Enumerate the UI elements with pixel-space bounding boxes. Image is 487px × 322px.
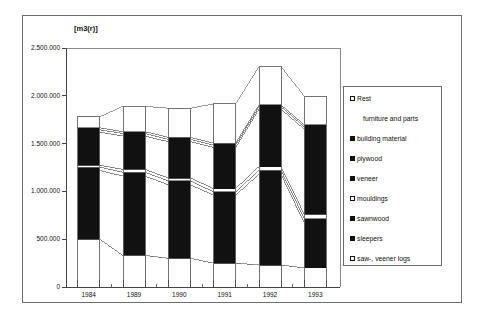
bar-segment: [168, 181, 190, 185]
legend-swatch-hollow-icon: [350, 196, 355, 201]
connector-band: [100, 132, 123, 169]
bar-segment: [168, 108, 190, 137]
legend-item[interactable]: furniture and parts: [361, 115, 418, 122]
legend-item[interactable]: building material: [350, 135, 407, 142]
legend-swatch-filled-icon: [350, 236, 355, 241]
y-axis-tick-label: 1.500.000: [16, 140, 60, 147]
bar-segment: [259, 67, 281, 105]
legend-item[interactable]: sleepers: [350, 235, 383, 242]
bar-segment: [168, 258, 190, 287]
bar-segment: [78, 117, 100, 128]
bar-segment: [214, 104, 236, 143]
bar-segment: [168, 139, 190, 141]
bar-segment: [78, 170, 100, 239]
legend-item-label: sleepers: [357, 235, 383, 242]
legend-item-label: sawnwood: [357, 215, 389, 222]
bar-segment: [259, 170, 281, 174]
connector-band: [281, 265, 304, 287]
bar-segment: [123, 106, 145, 131]
y-axis-tick-label: 500.000: [16, 235, 60, 242]
legend-item[interactable]: veneer: [350, 175, 378, 182]
y-axis-tick-label: 2.000.000: [16, 92, 60, 99]
connector-band: [236, 263, 259, 287]
legend-swatch-filled-icon: [350, 136, 355, 141]
connector-band: [145, 106, 168, 137]
bar-segment: [78, 239, 100, 287]
legend-swatch-filled-icon: [350, 156, 355, 161]
bar-segment: [123, 255, 145, 287]
bar-segment: [304, 223, 326, 268]
bar-segment: [123, 169, 145, 172]
y-axis-tick-label: 0: [16, 283, 60, 290]
bar-segment: [168, 178, 190, 181]
x-axis-tick-label: 1990: [159, 291, 199, 298]
bar-segment: [214, 263, 236, 287]
legend-item-label: building material: [357, 135, 407, 142]
legend: Restfurniture and partsbuilding material…: [343, 86, 442, 266]
legend-item-label: Rest: [357, 95, 371, 102]
legend-item-label: saw-, veener logs: [357, 255, 410, 262]
bar-segment: [168, 142, 190, 178]
legend-swatch-hollow-icon: [350, 256, 355, 261]
bar-segment: [259, 107, 281, 109]
bar-segment: [214, 189, 236, 192]
bar-segment: [123, 134, 145, 136]
bar-segment: [168, 185, 190, 259]
connector-band: [145, 255, 168, 287]
connector-band: [190, 104, 213, 143]
bar-segment: [78, 132, 100, 165]
bar-segment: [304, 268, 326, 287]
bar-segment: [214, 192, 236, 195]
legend-item[interactable]: Rest: [350, 95, 371, 102]
bar-segment: [304, 219, 326, 223]
bar-segment: [259, 109, 281, 166]
bar-segment: [123, 176, 145, 255]
legend-item[interactable]: plywood: [350, 155, 382, 162]
bar-segment: [78, 167, 100, 170]
bar-segment: [214, 147, 236, 188]
bar-segment: [304, 96, 326, 125]
x-axis-tick-label: 1989: [114, 291, 154, 298]
legend-item-label: veneer: [357, 175, 378, 182]
bar-segment: [259, 265, 281, 287]
y-axis-tick-label: 1.000.000: [16, 187, 60, 194]
legend-swatch-filled-icon: [350, 176, 355, 181]
x-axis-tick-label: 1991: [205, 291, 245, 298]
legend-item-label: furniture and parts: [363, 115, 418, 122]
bar-segment: [259, 174, 281, 265]
connector-band: [190, 185, 213, 263]
x-axis-tick-label: 1993: [295, 291, 335, 298]
bar-segment: [78, 165, 100, 167]
bar-segment: [259, 167, 281, 171]
connector-band: [145, 176, 168, 258]
bar-segment: [214, 145, 236, 147]
legend-item[interactable]: sawnwood: [350, 215, 389, 222]
bar-segment: [304, 129, 326, 214]
bar-segment: [214, 195, 236, 263]
bar-segment: [78, 130, 100, 132]
legend-item-label: mouldings: [357, 195, 388, 202]
legend-swatch-filled-icon: [350, 216, 355, 221]
y-axis-tick-label: 2.500.000: [16, 44, 60, 51]
bar-segment: [123, 172, 145, 176]
bar-segment: [304, 127, 326, 129]
legend-item-label: plywood: [357, 155, 382, 162]
connector-band: [100, 106, 123, 131]
legend-swatch-hollow-icon: [350, 96, 355, 101]
legend-item[interactable]: mouldings: [350, 195, 388, 202]
bar-segment: [123, 136, 145, 169]
legend-item[interactable]: saw-, veener logs: [350, 255, 410, 262]
x-axis-tick-label: 1984: [69, 291, 109, 298]
chart-screenshot: [m3(r)] Restfurniture and partsbuilding …: [0, 0, 487, 322]
bar-segment: [304, 214, 326, 218]
x-axis-tick-label: 1992: [250, 291, 290, 298]
